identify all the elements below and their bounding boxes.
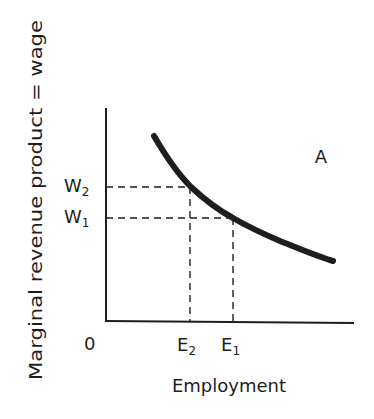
chart: A W2 W1 0 E2 E1 Employment Marginal reve… bbox=[0, 0, 374, 419]
curve-label: A bbox=[315, 146, 328, 167]
mrp-curve-a bbox=[154, 136, 333, 261]
x-tick-e1: E1 bbox=[221, 334, 240, 358]
x-tick-e2: E2 bbox=[177, 334, 196, 358]
origin-label: 0 bbox=[84, 333, 95, 354]
y-axis-label: Marginal revenue product = wage bbox=[26, 20, 46, 380]
x-axis-label: Employment bbox=[172, 375, 286, 396]
y-tick-w2: W2 bbox=[64, 175, 89, 199]
y-tick-w1: W1 bbox=[64, 206, 89, 230]
x-axis bbox=[105, 321, 354, 323]
